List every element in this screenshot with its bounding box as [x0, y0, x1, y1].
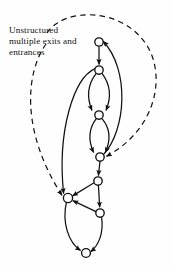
edge-d-a-back: [103, 41, 122, 154]
solid-edges: [62, 41, 122, 252]
edge-f-h: [65, 202, 81, 250]
node-e[interactable]: [94, 177, 102, 185]
edge-e-g: [98, 185, 99, 207]
edge-b-c-left: [89, 73, 97, 110]
node-d[interactable]: [96, 153, 104, 161]
node-g[interactable]: [96, 209, 104, 217]
node-c[interactable]: [95, 111, 103, 119]
edge-g-h: [91, 217, 103, 252]
edge-g-f: [73, 201, 96, 212]
edge-c-d-left: [90, 119, 96, 153]
edge-e-f: [73, 183, 95, 196]
edge-c-d-right: [102, 119, 109, 153]
figure-container: Unstructured multiple exits and entrance…: [0, 0, 172, 271]
edge-b-c-right: [102, 73, 109, 110]
node-h[interactable]: [82, 249, 91, 258]
edge-d-e: [98, 161, 100, 175]
dashed-edge-entrance-to-f: [31, 44, 62, 195]
unstructured-multiple-exits-and-entrances-label: Unstructured multiple exits and entrance…: [9, 25, 101, 59]
node-f[interactable]: [63, 193, 72, 202]
node-b[interactable]: [95, 66, 103, 74]
graph-nodes: [63, 38, 104, 258]
